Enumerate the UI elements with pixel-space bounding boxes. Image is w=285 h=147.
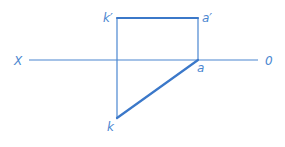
point-label-k-prime: k′ (103, 11, 113, 25)
segment-a-k (117, 60, 198, 118)
axis-label-o: 0 (265, 54, 273, 68)
point-label-k: k (107, 120, 115, 134)
projection-diagram: X 0 k′ a′ a k (0, 0, 285, 147)
point-label-a: a (197, 61, 204, 75)
axis-label-x: X (13, 54, 23, 68)
point-label-a-prime: a′ (202, 11, 212, 25)
